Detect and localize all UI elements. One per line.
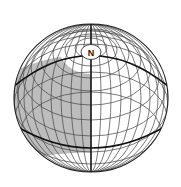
globe-body: [0, 0, 181, 187]
globe-diagram: N: [0, 0, 181, 187]
north-pole-label: N: [88, 48, 95, 58]
